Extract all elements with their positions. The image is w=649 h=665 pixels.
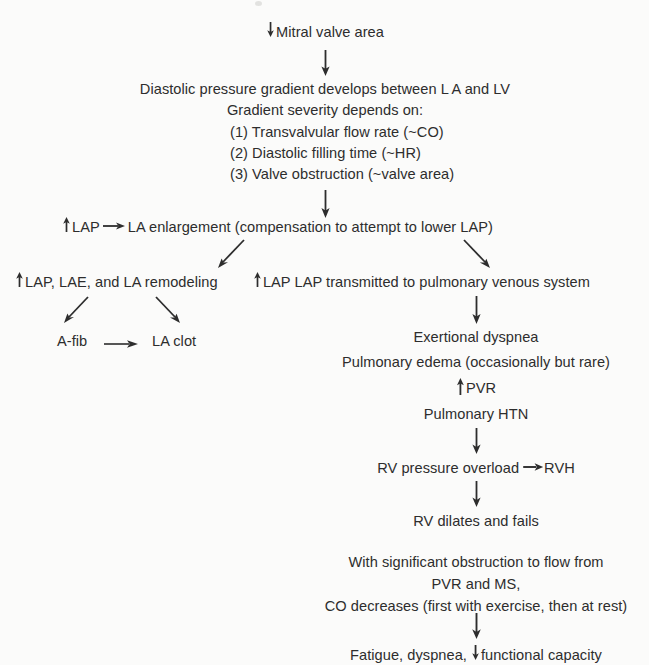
gradient-line-2: Gradient severity depends on: (140, 100, 510, 121)
la-clot-label: LA clot (152, 333, 196, 349)
connector-arrow-diagonal-left (214, 240, 248, 270)
pulmonary-edema-label: Pulmonary edema (occasionally but rare) (342, 354, 610, 370)
down-arrow-icon (266, 22, 275, 37)
rv-pressure-overload-label: RV pressure overload (377, 460, 519, 476)
lap-label: LAP (72, 219, 100, 235)
connector-arrow-down-4 (470, 428, 483, 454)
la-enlargement-label: LA enlargement (compensation to attempt … (128, 219, 493, 235)
node-exertional-dyspnea: Exertional dyspnea (413, 327, 538, 348)
connector-arrow-diagonal-laclot (152, 297, 184, 325)
fatigue-pre-label: Fatigue, dyspnea, (350, 647, 467, 663)
node-la-clot: LA clot (152, 331, 196, 352)
factor-2: (2) Diastolic filling time (~HR) (230, 143, 454, 164)
rvh-label: RVH (544, 460, 575, 476)
node-pulmonary-htn: Pulmonary HTN (424, 404, 528, 425)
connector-arrow-right-afib-laclot (104, 338, 138, 350)
pvr-label: PVR (466, 380, 496, 396)
lap-transmitted-text: LAP LAP transmitted to pulmonary venous … (263, 274, 590, 290)
up-arrow-icon (253, 272, 262, 287)
connector-arrow-down-5 (470, 481, 483, 507)
down-arrow-icon (471, 645, 480, 660)
node-label: Mitral valve area (276, 24, 384, 40)
pulmonary-htn-label: Pulmonary HTN (424, 406, 528, 422)
connector-arrow-down-3 (470, 296, 483, 324)
node-gradient-factors: (1) Transvalvular flow rate (~CO) (2) Di… (230, 122, 454, 185)
rv-dilates-label: RV dilates and fails (413, 513, 539, 529)
right-arrow-icon (523, 461, 543, 473)
connector-arrow-down-6 (470, 613, 483, 639)
flowchart-canvas: Mitral valve area Diastolic pressure gra… (0, 0, 649, 665)
node-rv-dilates-and-fails: RV dilates and fails (413, 511, 539, 532)
up-arrow-icon (15, 272, 24, 287)
fatigue-post-label: functional capacity (481, 647, 602, 663)
lap-lae-label: LAP, LAE, and LA remodeling (25, 274, 218, 290)
exertional-dyspnea-label: Exertional dyspnea (413, 329, 538, 345)
up-arrow-icon (456, 378, 465, 393)
connector-arrow-diagonal-afib (60, 297, 92, 325)
node-pressure-gradient: Diastolic pressure gradient develops bet… (140, 79, 510, 121)
node-afib: A-fib (57, 331, 87, 352)
connector-arrow-down-1 (319, 50, 332, 76)
up-arrow-icon (62, 217, 71, 232)
afib-label: A-fib (57, 333, 87, 349)
connector-arrow-down-2 (319, 190, 332, 218)
scan-artifact (255, 1, 262, 6)
node-pulmonary-edema: Pulmonary edema (occasionally but rare) (342, 352, 610, 373)
node-obstruction-block: With significant obstruction to flow fro… (325, 551, 627, 617)
connector-arrow-diagonal-right (460, 240, 494, 270)
node-lap-la-enlargement: LAP LA enlargement (compensation to atte… (62, 217, 493, 238)
node-mitral-valve-area: Mitral valve area (266, 22, 384, 43)
factor-1: (1) Transvalvular flow rate (~CO) (230, 122, 454, 143)
factor-3: (3) Valve obstruction (~valve area) (230, 164, 454, 185)
node-fatigue-dyspnea: Fatigue, dyspnea, functional capacity (350, 645, 602, 665)
node-pvr: PVR (456, 378, 496, 399)
node-lap-transmitted: LAP LAP transmitted to pulmonary venous … (253, 272, 590, 293)
obstruction-line-2: PVR and MS, (325, 573, 627, 595)
gradient-line-1: Diastolic pressure gradient develops bet… (140, 79, 510, 100)
node-lap-lae-remodeling: LAP, LAE, and LA remodeling (15, 272, 218, 293)
node-rv-pressure-overload: RV pressure overload RVH (377, 458, 575, 479)
right-arrow-icon (103, 220, 125, 232)
obstruction-line-1: With significant obstruction to flow fro… (325, 551, 627, 573)
